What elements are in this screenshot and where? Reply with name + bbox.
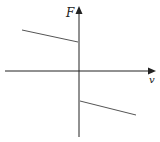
- f-axis-label: F: [65, 6, 75, 20]
- v-axis-label: v: [149, 74, 155, 85]
- force-velocity-diagram: F v: [0, 0, 160, 142]
- upper-segment: [22, 30, 78, 42]
- f-axis-arrow-icon: [76, 6, 83, 14]
- lower-segment: [80, 101, 136, 115]
